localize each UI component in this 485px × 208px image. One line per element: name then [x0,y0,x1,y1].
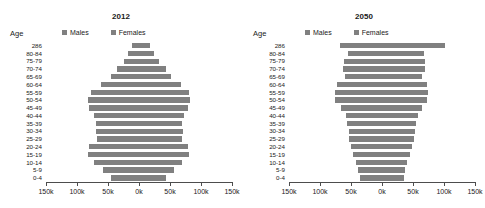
pyramid-row: 70-74 [289,65,475,73]
bar-males [349,129,382,134]
x-tick-label: 100k [69,188,84,195]
pyramid-row: 80-84 [46,50,232,58]
x-tick-label: 50k [407,188,418,195]
age-group-label: 30-34 [26,128,42,134]
bar-rows: 28680-8475-7970-7465-6960-6455-5950-5445… [46,42,232,182]
age-group-label: 5-9 [276,167,285,173]
x-axis: 150k100k50k0k50k100k150k [289,182,475,183]
bar-males [111,74,139,79]
bar-females [382,74,422,79]
bar-females [382,51,424,56]
bar-females [382,136,414,141]
pyramid-row: 55-59 [46,89,232,97]
pyramid-row: 20-24 [289,143,475,151]
x-axis: 150k100k50k0k50k100k150k [46,182,232,183]
bar-males [346,113,382,118]
age-group-label: 80-84 [26,51,42,57]
pyramid-row: 55-59 [289,89,475,97]
bar-females [382,66,425,71]
pyramid-row: 50-54 [46,96,232,104]
legend-swatch-icon [111,30,116,35]
x-tick [232,182,233,186]
legend-label-females: Females [119,29,146,36]
age-group-label: 15-19 [269,152,285,158]
bar-males [348,51,382,56]
bar-males [94,113,139,118]
legend: Males Females [62,29,232,36]
chart-panel-2012: 2012 Age Males Females 28680-8475-7970-7… [0,0,242,208]
bar-females [139,136,182,141]
bar-females [139,82,181,87]
bar-males [91,90,139,95]
x-tick-label: 0k [135,188,142,195]
pyramid-row: 45-49 [46,104,232,112]
x-tick [289,182,290,186]
age-group-label: 70-74 [26,66,42,72]
bar-males [349,136,382,141]
bar-females [139,152,189,157]
age-group-label: 55-59 [26,89,42,95]
bar-females [139,97,190,102]
bar-females [139,74,171,79]
bar-females [139,121,182,126]
legend-entry-females: Females [354,29,389,36]
bar-males [124,59,140,64]
x-tick [444,182,445,186]
bar-males [347,121,382,126]
pyramid-row: 20-24 [46,143,232,151]
x-tick-label: 150k [467,188,482,195]
bar-females [382,113,418,118]
bar-males [97,136,139,141]
x-tick-label: 50k [102,188,113,195]
plot-area: 28680-8475-7970-7465-6960-6455-5950-5445… [46,42,232,182]
pyramid-row: 60-64 [289,81,475,89]
x-tick [351,182,352,186]
bar-females [139,90,189,95]
pyramid-row: 35-39 [46,120,232,128]
bar-males [353,152,382,157]
x-tick [170,182,171,186]
age-group-label: 75-79 [26,58,42,64]
legend-swatch-icon [62,30,67,35]
pyramid-row: 10-14 [46,159,232,167]
pyramid-row: 286 [289,42,475,50]
bar-females [139,43,150,48]
age-group-label: 40-44 [269,113,285,119]
bar-females [139,105,188,110]
age-group-label: 15-19 [26,152,42,158]
bar-males [89,105,139,110]
bar-females [382,167,405,172]
pyramid-row: 50-54 [289,96,475,104]
bar-females [382,160,407,165]
pyramid-row: 75-79 [289,58,475,66]
bar-females [139,160,182,165]
bar-rows: 28680-8475-7970-7465-6960-6455-5950-5445… [289,42,475,182]
x-tick-label: 100k [193,188,208,195]
pyramid-row: 15-19 [46,151,232,159]
legend: Males Females [305,29,475,36]
age-group-label: 75-79 [269,58,285,64]
legend-entry-males: Males [305,29,332,36]
bar-females [139,167,174,172]
pyramid-row: 30-34 [46,128,232,136]
x-tick [46,182,47,186]
bar-females [139,113,184,118]
bar-males [337,82,382,87]
bar-females [382,90,428,95]
pyramid-row: 0-4 [289,174,475,182]
pyramid-row: 70-74 [46,65,232,73]
x-tick [320,182,321,186]
x-tick [475,182,476,186]
bar-females [382,82,427,87]
age-group-label: 50-54 [26,97,42,103]
age-group-label: 40-44 [26,113,42,119]
bar-females [139,51,154,56]
pyramid-row: 65-69 [289,73,475,81]
bar-females [382,152,410,157]
x-tick-label: 150k [281,188,296,195]
age-group-label: 55-59 [269,89,285,95]
x-tick-label: 150k [224,188,239,195]
pyramid-row: 45-49 [289,104,475,112]
bar-males [88,97,139,102]
age-group-label: 60-64 [269,82,285,88]
